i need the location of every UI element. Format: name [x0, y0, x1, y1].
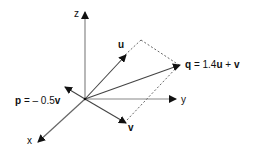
vector-v: [85, 99, 126, 123]
q-plus: +: [223, 59, 234, 70]
dashed-u-to-q: [125, 40, 141, 55]
vector-p: [65, 87, 85, 99]
v-label: v: [128, 122, 134, 133]
x-axis-label: x: [27, 135, 32, 146]
dashed-top-to-q: [141, 40, 179, 65]
q-v-symbol: v: [234, 59, 240, 70]
p-expr: = – 0.5: [21, 95, 55, 106]
q-equation: q = 1.4u + v: [185, 59, 240, 70]
vector-q: [85, 65, 180, 99]
q-expr: = 1.4: [191, 59, 217, 70]
p-v-symbol: v: [55, 95, 61, 106]
dashed-v-to-q: [127, 65, 179, 120]
origin-point: [84, 98, 86, 100]
p-equation: p = – 0.5v: [15, 95, 61, 106]
vector-u: [85, 55, 126, 99]
u-label: u: [118, 39, 124, 50]
z-axis-label: z: [74, 8, 79, 19]
y-axis-label: y: [181, 94, 186, 105]
vector-diagram: z y x u v q = 1.4u + v p = – 0.5v: [0, 0, 253, 151]
